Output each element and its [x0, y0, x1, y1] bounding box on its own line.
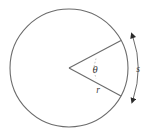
radius-label: r — [96, 85, 100, 95]
arc-length-label: s — [136, 64, 140, 74]
geometry-figure: θ r s — [0, 0, 151, 135]
circle-sector-svg: θ r s — [0, 0, 151, 135]
angle-label: θ — [92, 64, 97, 75]
